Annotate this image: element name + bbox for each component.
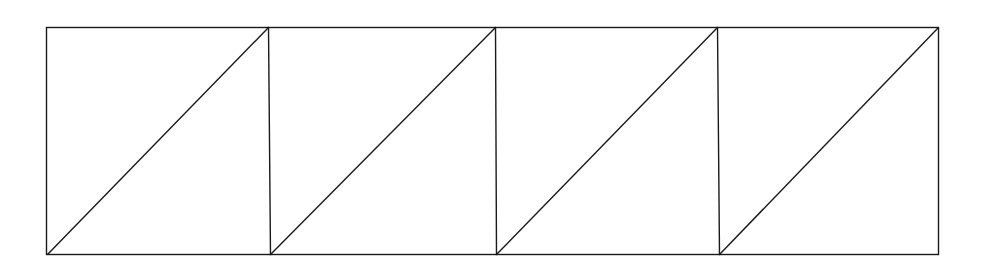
cell-divider-2	[496, 28, 497, 255]
cell-diagonal-1	[48, 28, 269, 255]
cell-divider-3	[718, 28, 720, 255]
cells-group	[48, 28, 939, 255]
outer-border	[47, 28, 939, 255]
cell-diagonal-3	[497, 28, 718, 255]
cell-diagonal-4	[720, 28, 939, 255]
triangulated-strip-diagram	[0, 0, 989, 270]
cell-diagonal-2	[271, 28, 496, 255]
cell-divider-1	[269, 28, 271, 255]
